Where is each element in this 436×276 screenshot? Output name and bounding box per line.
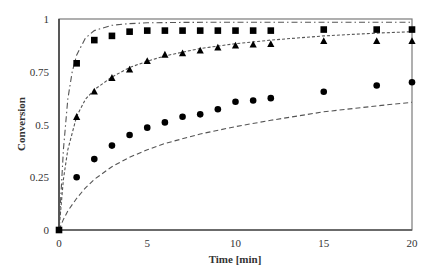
square-marker [91, 37, 98, 44]
x-axis-title: Time [min] [209, 253, 262, 265]
y-tick-label: 0.75 [30, 66, 50, 78]
model-curve-0 [59, 22, 412, 230]
model-curve-1 [59, 32, 412, 230]
square-marker [197, 27, 204, 34]
circle-marker [91, 156, 98, 163]
x-tick-label: 10 [230, 237, 242, 249]
square-marker [162, 27, 169, 34]
triangle-marker [232, 42, 239, 49]
square-marker [144, 27, 151, 34]
y-tick-label: 0 [44, 224, 50, 236]
circle-marker [320, 88, 327, 95]
y-tick-label: 0.25 [30, 171, 50, 183]
square-marker [268, 27, 275, 34]
square-marker [320, 26, 327, 33]
square-marker [215, 27, 222, 34]
x-tick-label: 15 [318, 237, 330, 249]
square-marker [250, 27, 257, 34]
triangle-marker [91, 88, 98, 95]
triangle-marker [250, 41, 257, 48]
x-tick-labels: 05101520 [56, 237, 418, 249]
conversion-chart: 05101520 00.250.50.751 Time [min] Conver… [0, 0, 436, 276]
y-tick-label: 0.5 [35, 119, 49, 131]
circle-marker [373, 82, 380, 89]
triangle-marker [320, 37, 327, 44]
x-tick-label: 20 [407, 237, 419, 249]
square-marker [56, 227, 63, 234]
model-curves [59, 22, 412, 230]
x-tick-label: 5 [145, 237, 151, 249]
circle-marker [73, 174, 80, 181]
circle-marker [126, 132, 133, 139]
square-marker [73, 60, 80, 67]
model-curve-2 [59, 102, 412, 230]
circle-marker [232, 98, 239, 105]
circle-marker [268, 95, 275, 102]
x-tick-label: 0 [56, 237, 62, 249]
triangle-marker [161, 51, 168, 58]
data-markers [56, 26, 416, 233]
y-axis-title: Conversion [15, 97, 27, 151]
circle-marker [250, 97, 257, 104]
square-marker [179, 27, 186, 34]
plot-axes [59, 19, 412, 230]
triangle-marker [373, 37, 380, 44]
square-marker [232, 27, 239, 34]
y-tick-label: 1 [44, 13, 50, 25]
plot-frame [59, 19, 412, 230]
circle-marker [215, 106, 222, 113]
circle-marker [162, 119, 169, 126]
triangle-marker [73, 113, 80, 120]
circle-marker [179, 113, 186, 120]
triangle-marker [267, 40, 274, 47]
triangle-marker [214, 44, 221, 51]
y-tick-labels: 00.250.50.751 [30, 13, 50, 236]
circle-marker [409, 79, 416, 86]
square-marker [409, 26, 416, 33]
circle-marker [197, 111, 204, 118]
circle-marker [109, 142, 116, 149]
triangle-marker [408, 37, 415, 44]
circle-marker [144, 124, 151, 131]
square-marker [373, 26, 380, 33]
square-marker [109, 33, 116, 40]
square-marker [126, 28, 133, 35]
